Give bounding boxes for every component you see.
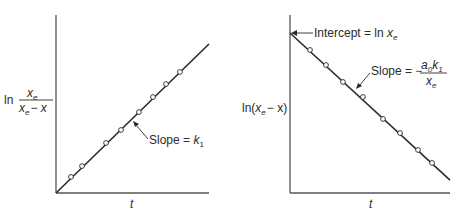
arrow-head-icon bbox=[133, 121, 139, 127]
svg-text:xe− x: xe− x bbox=[18, 101, 48, 117]
figure: ln xe xe− x t Slope = k1 ln(xe− x) t Int… bbox=[0, 0, 464, 221]
svg-text:ln(xe− x): ln(xe− x) bbox=[242, 101, 287, 117]
svg-text:xe: xe bbox=[425, 74, 437, 90]
svg-text:a0k1: a0k1 bbox=[421, 58, 443, 74]
left-y-label: ln xe xe− x bbox=[4, 86, 53, 117]
intercept-annotation: Intercept = ln xe bbox=[291, 26, 398, 42]
right-fit-line bbox=[290, 33, 450, 180]
left-x-label: t bbox=[130, 197, 134, 211]
left-panel: ln xe xe− x t Slope = k1 bbox=[4, 15, 209, 211]
data-point-marker bbox=[308, 48, 313, 53]
right-y-label: ln(xe− x) bbox=[242, 101, 287, 117]
data-point-marker bbox=[416, 148, 421, 153]
data-point-marker bbox=[430, 161, 435, 166]
svg-text:Slope = k1: Slope = k1 bbox=[149, 133, 204, 149]
data-point-marker bbox=[151, 95, 156, 100]
data-point-marker bbox=[324, 63, 329, 68]
data-point-marker bbox=[178, 70, 183, 75]
data-point-marker bbox=[69, 175, 74, 180]
right-x-label: t bbox=[369, 197, 373, 211]
left-fit-line bbox=[56, 44, 209, 193]
right-panel: ln(xe− x) t Intercept = ln xe Slope = − … bbox=[242, 15, 450, 211]
data-point-marker bbox=[381, 117, 386, 122]
svg-text:Slope = −: Slope = − bbox=[371, 64, 422, 78]
left-slope-annotation: Slope = k1 bbox=[133, 121, 204, 149]
data-point-marker bbox=[80, 164, 85, 169]
data-point-marker bbox=[361, 95, 366, 100]
svg-text:ln: ln bbox=[4, 93, 13, 107]
data-point-marker bbox=[341, 80, 346, 85]
data-point-marker bbox=[104, 141, 109, 146]
data-point-marker bbox=[398, 131, 403, 136]
right-slope-annotation: Slope = − a0k1 xe bbox=[356, 58, 447, 90]
svg-text:Intercept = ln xe: Intercept = ln xe bbox=[314, 26, 398, 42]
data-point-marker bbox=[119, 128, 124, 133]
data-point-marker bbox=[137, 110, 142, 115]
data-point-marker bbox=[164, 82, 169, 87]
